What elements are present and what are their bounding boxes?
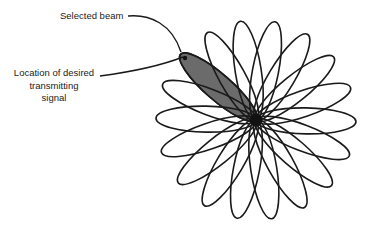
desired-signal-label: Location of desired transmitting signal [10, 67, 98, 105]
pattern-center-hub [250, 114, 262, 126]
beam-pattern-svg [0, 0, 369, 233]
selected-beam-label: Selected beam [60, 10, 123, 23]
target-dot-icon [183, 56, 187, 60]
selected-beam-leader-line [128, 16, 181, 52]
beam-pattern-diagram: Selected beam Location of desired transm… [0, 0, 369, 233]
desired-signal-leader-line [100, 57, 183, 76]
desired-signal-label-line-3: signal [10, 92, 98, 105]
desired-signal-label-line-2: transmitting [10, 80, 98, 93]
desired-signal-label-line-1: Location of desired [10, 67, 98, 80]
